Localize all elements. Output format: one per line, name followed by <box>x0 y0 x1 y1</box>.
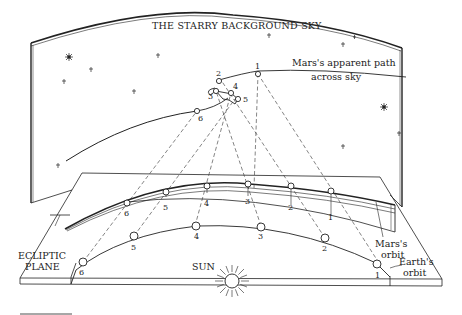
bright-star-icon <box>380 103 388 111</box>
earth-orbit-label-2: orbit <box>403 267 426 278</box>
sun-label: SUN <box>192 261 215 272</box>
earth-position-4: 4 <box>194 232 199 241</box>
mars-position-5: 5 <box>163 203 168 212</box>
stars <box>56 33 401 168</box>
earth-position-6: 6 <box>79 268 84 277</box>
mars-orbit <box>65 183 395 237</box>
bright-star-icon <box>65 53 73 61</box>
earth-orbit-positions: 1 2 3 4 5 6 <box>79 222 381 280</box>
retrograde-motion-diagram: THE STARRY BACKGROUND SKY <box>0 0 462 315</box>
earth-orbit-label-1: Earth's <box>399 256 434 267</box>
ecliptic-label-1: ECLIPTIC <box>18 250 66 261</box>
sky-position-3: 3 <box>208 92 213 101</box>
starry-sky-panel <box>31 13 402 207</box>
sky-position-5: 5 <box>243 95 248 104</box>
mars-position-3: 3 <box>245 197 250 206</box>
mars-position-6: 6 <box>124 209 129 218</box>
star-icon <box>56 33 401 168</box>
earth-position-1: 1 <box>375 271 380 280</box>
mars-position-2: 2 <box>288 203 293 212</box>
mars-path-label-1: Mars's apparent path <box>292 57 396 68</box>
sky-position-2: 2 <box>216 69 221 78</box>
sky-positions: 1 2 3 4 5 6 <box>194 62 260 123</box>
sky-position-4: 4 <box>233 82 238 91</box>
sight-lines <box>83 74 379 263</box>
earth-position-3: 3 <box>258 232 263 241</box>
mars-orbit-label-1: Mars's <box>375 238 407 249</box>
mars-position-1: 1 <box>328 213 333 222</box>
earth-position-2: 2 <box>322 244 327 253</box>
mars-position-4: 4 <box>204 199 209 208</box>
mars-orbit-positions: 1 2 3 4 5 6 <box>124 181 334 222</box>
ecliptic-label-2: PLANE <box>25 261 60 272</box>
mars-path-label-2: across sky <box>311 71 362 82</box>
earth-position-5: 5 <box>131 243 136 252</box>
sky-position-6: 6 <box>198 114 203 123</box>
sun-icon <box>215 265 249 297</box>
sky-position-1: 1 <box>255 62 260 71</box>
sky-title: THE STARRY BACKGROUND SKY <box>152 20 322 31</box>
